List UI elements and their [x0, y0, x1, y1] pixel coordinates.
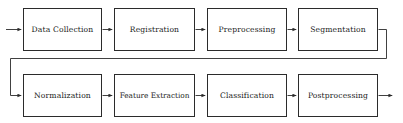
node-postprocessing[interactable]: Postprocessing — [298, 74, 378, 117]
node-normalization[interactable]: Normalization — [23, 74, 102, 117]
node-classification[interactable]: Classification — [207, 74, 287, 117]
node-registration[interactable]: Registration — [114, 8, 195, 51]
node-label-data-collection: Data Collection — [31, 26, 95, 34]
node-label-feature-extraction: Feature Extraction — [119, 92, 191, 99]
node-segmentation[interactable]: Segmentation — [298, 8, 378, 51]
node-label-preprocessing: Preprocessing — [218, 26, 277, 34]
flowchart-diagram: Data Collection Registration Preprocessi… — [0, 0, 403, 123]
node-label-registration: Registration — [129, 26, 180, 34]
node-feature-extraction[interactable]: Feature Extraction — [114, 74, 195, 117]
node-label-postprocessing: Postprocessing — [307, 92, 369, 100]
node-preprocessing[interactable]: Preprocessing — [207, 8, 287, 51]
node-label-classification: Classification — [219, 92, 275, 100]
node-data-collection[interactable]: Data Collection — [23, 8, 102, 51]
node-label-segmentation: Segmentation — [309, 26, 366, 34]
node-label-normalization: Normalization — [33, 92, 92, 100]
